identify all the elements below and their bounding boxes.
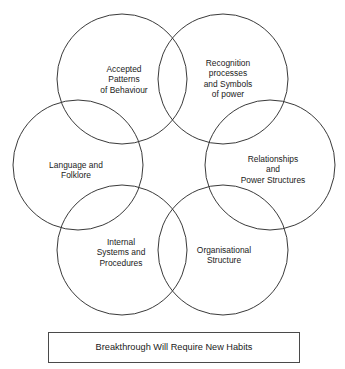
circle-label-internal-systems-and-procedures: Internal Systems and Procedures (97, 237, 146, 268)
breakthrough-banner: Breakthrough Will Require New Habits (48, 332, 300, 363)
circle-label-language-and-folklore: Language and Folklore (49, 160, 103, 181)
circle-label-organisational-structure: Organisational Structure (197, 245, 251, 266)
circle-label-recognition-processes-and-symbols-of-power: Recognition processes and Symbols of pow… (204, 58, 253, 100)
culture-venn-diagram: Accepted Patterns of Behaviour Recogniti… (0, 0, 345, 369)
circle-label-relationships-and-power-structures: Relationships and Power Structures (241, 154, 306, 185)
circle-label-accepted-patterns-of-behaviour: Accepted Patterns of Behaviour (100, 64, 147, 95)
breakthrough-banner-text: Breakthrough Will Require New Habits (96, 342, 253, 353)
